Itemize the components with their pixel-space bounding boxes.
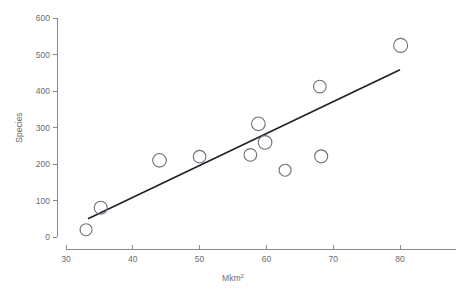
x-axis-tick-label: 50 bbox=[195, 254, 205, 264]
y-axis-tick-label: 200 bbox=[36, 159, 50, 169]
y-axis-tick-label: 600 bbox=[36, 13, 50, 23]
data-point-marker bbox=[258, 136, 272, 150]
x-axis-title: Mkm2 bbox=[222, 273, 244, 284]
regression-fit-line bbox=[88, 70, 400, 219]
plot-canvas: 0100200300400500600Species304050607080Mk… bbox=[0, 0, 456, 298]
x-axis-tick-label: 40 bbox=[128, 254, 138, 264]
x-axis-tick-label: 80 bbox=[395, 254, 405, 264]
scatter-plot-figure: 0100200300400500600Species304050607080Mk… bbox=[0, 0, 456, 298]
x-axis-tick-label: 30 bbox=[61, 254, 71, 264]
y-axis-tick-label: 500 bbox=[36, 50, 50, 60]
x-axis-tick-label: 60 bbox=[262, 254, 272, 264]
y-axis-tick-label: 400 bbox=[36, 86, 50, 96]
data-point-marker bbox=[315, 150, 328, 163]
y-axis-tick-label: 0 bbox=[45, 232, 50, 242]
x-axis-tick-label: 70 bbox=[328, 254, 338, 264]
data-point-marker bbox=[314, 80, 327, 93]
data-point-marker bbox=[252, 117, 266, 131]
data-point-marker bbox=[153, 154, 167, 168]
data-point-marker bbox=[279, 164, 291, 176]
data-point-marker bbox=[193, 150, 206, 163]
y-axis-tick-label: 300 bbox=[36, 123, 50, 133]
y-axis-tick-label: 100 bbox=[36, 196, 50, 206]
data-point-marker bbox=[244, 149, 257, 162]
y-axis-title: Species bbox=[14, 112, 24, 142]
data-point-marker bbox=[80, 224, 92, 236]
data-point-marker bbox=[394, 38, 408, 52]
